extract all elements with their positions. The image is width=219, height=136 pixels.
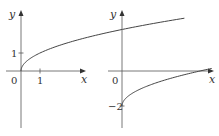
x-axis-label: x bbox=[81, 73, 88, 86]
chart-left-sqrt: xy011 bbox=[6, 8, 184, 128]
y-tick-label: −2 bbox=[108, 101, 123, 112]
origin-label: 0 bbox=[112, 75, 118, 86]
y-tick-label: 1 bbox=[11, 48, 17, 59]
y-axis-arrow-icon bbox=[120, 10, 125, 16]
sqrt-curve bbox=[122, 68, 212, 106]
y-axis-arrow-icon bbox=[19, 10, 24, 16]
sqrt-curve bbox=[21, 18, 184, 71]
y-axis-label: y bbox=[8, 8, 16, 21]
chart: xy011 xy0−2 bbox=[0, 0, 219, 136]
chart-right-sqrt-minus-2: xy0−2 bbox=[108, 8, 216, 128]
x-tick-label: 1 bbox=[37, 75, 43, 86]
origin-label: 0 bbox=[11, 75, 17, 86]
x-axis-label: x bbox=[209, 73, 216, 86]
y-axis-label: y bbox=[109, 8, 117, 21]
